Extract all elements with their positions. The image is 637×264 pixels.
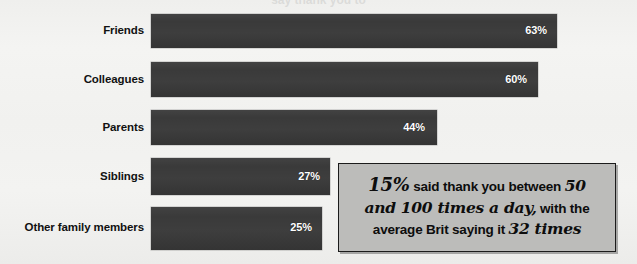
- bar-siblings[interactable]: 27%: [151, 158, 330, 195]
- bar-value-siblings: 27%: [298, 170, 320, 182]
- callout-stat-percent: 15%: [368, 174, 409, 195]
- bar-category-label-siblings: Siblings: [100, 170, 144, 182]
- bar-value-colleagues: 60%: [505, 73, 527, 85]
- callout-line-3-sans: average Brit saying it: [373, 222, 505, 237]
- callout-text-block: 15% said thank you between 50 and 100 ti…: [339, 164, 615, 251]
- callout-stat-thirtytwo: 32 times: [509, 219, 582, 238]
- bar-category-label-parents: Parents: [103, 121, 145, 133]
- bar-value-friends: 63%: [525, 24, 547, 36]
- callout-line-1: 15% said thank you between 50: [368, 173, 585, 197]
- callout-line-1-sans: said thank you between: [413, 179, 561, 194]
- callout-stat-fifty: 50: [565, 176, 586, 195]
- callout-line-2-script: and 100 times a day,: [365, 198, 537, 217]
- bar-other-family-members[interactable]: 25%: [151, 207, 322, 250]
- bar-category-label-colleagues: Colleagues: [84, 73, 144, 85]
- bar-friends[interactable]: 63%: [151, 14, 557, 48]
- bar-parents[interactable]: 44%: [151, 110, 437, 145]
- bar-value-parents: 44%: [403, 121, 425, 133]
- callout-line-3: average Brit saying it 32 times: [373, 219, 581, 240]
- bar-category-label-other-family-members: Other family members: [25, 221, 144, 233]
- bar-category-label-friends: Friends: [103, 24, 144, 36]
- callout-line-2: and 100 times a day, with the: [365, 198, 590, 219]
- callout-line-2-sans: with the: [540, 201, 589, 216]
- callout-box: 15% said thank you between 50 and 100 ti…: [338, 163, 616, 252]
- bar-colleagues[interactable]: 60%: [151, 62, 538, 97]
- bar-value-other-family-members: 25%: [290, 221, 312, 233]
